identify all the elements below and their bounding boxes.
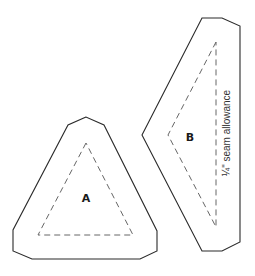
- seam-allowance-annotation: ¼" seam allowance: [221, 89, 232, 176]
- piece-a-sewing-line: [38, 143, 133, 235]
- piece-a-cut-line: [13, 117, 157, 259]
- diagram-svg: A B ¼" seam allowance: [0, 0, 255, 276]
- piece-b-label: B: [186, 131, 194, 144]
- quilt-template-diagram: A B ¼" seam allowance: [0, 0, 255, 276]
- piece-a-label: A: [82, 192, 91, 205]
